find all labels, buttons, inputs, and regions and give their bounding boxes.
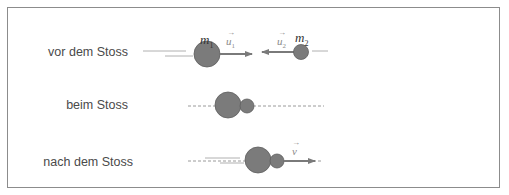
mass-2-ball [270, 154, 284, 168]
mass-2-label: m2 [295, 30, 308, 48]
vector-arrow-icon: → [227, 28, 235, 37]
row-after [188, 147, 322, 173]
velocity-v-label: → v [292, 145, 297, 157]
vector-arrow-icon: → [292, 138, 300, 147]
row-during [188, 92, 324, 118]
velocity-u1-label: → u1 [226, 35, 235, 50]
mass-1-ball [215, 92, 241, 118]
mass-1-label: m1 [200, 32, 213, 50]
mass-1-ball [245, 147, 271, 173]
mass-2-ball [240, 99, 254, 113]
velocity-u2-label: → u2 [277, 35, 286, 50]
collision-diagram [0, 0, 509, 195]
vector-arrow-icon: → [278, 28, 286, 37]
